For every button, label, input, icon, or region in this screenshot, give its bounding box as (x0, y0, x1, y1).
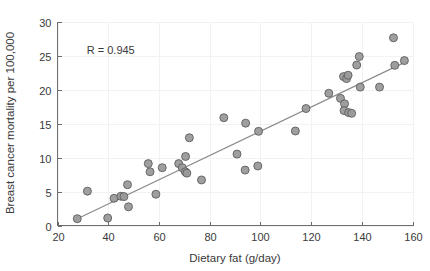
y-tick-label: 15 (39, 119, 51, 131)
y-tick-label: 0 (45, 221, 51, 233)
x-tick-label: 60 (153, 231, 165, 243)
data-point (400, 57, 408, 65)
y-tick-label: 30 (39, 17, 51, 29)
data-point (125, 203, 133, 211)
y-axis-title: Breast cancer mortality per 100,000 (4, 32, 16, 214)
data-point (325, 89, 333, 97)
data-point (182, 152, 190, 160)
data-point (198, 176, 206, 184)
data-point (241, 166, 249, 174)
scatter-plot: 20406080100120140160 051015202530 Dietar… (0, 0, 430, 271)
x-tick-label: 80 (204, 231, 216, 243)
data-point (185, 134, 193, 142)
data-point (144, 160, 152, 168)
x-axis-title: Dietary fat (g/day) (189, 252, 281, 264)
x-tick-label: 140 (353, 231, 371, 243)
data-point (254, 162, 262, 170)
data-point (348, 109, 356, 117)
data-point (158, 164, 166, 172)
data-point (120, 193, 128, 201)
data-point (146, 168, 154, 176)
y-tick-label: 10 (39, 153, 51, 165)
x-tick-label: 100 (251, 231, 269, 243)
correlation-annotation: R = 0.945 (87, 44, 135, 56)
data-point (152, 190, 160, 198)
data-point (255, 127, 263, 135)
data-point (389, 34, 397, 42)
chart-figure: 20406080100120140160 051015202530 Dietar… (0, 0, 430, 271)
data-point (104, 214, 112, 222)
data-point (233, 150, 241, 158)
data-point (344, 71, 352, 79)
y-tick-label: 5 (45, 187, 51, 199)
data-point (353, 61, 361, 69)
data-point (355, 53, 363, 61)
x-tick-label: 120 (302, 231, 320, 243)
data-point (302, 105, 310, 113)
data-point (183, 169, 191, 177)
data-point (291, 127, 299, 135)
x-tick-label: 160 (404, 231, 422, 243)
x-tick-label: 20 (52, 231, 64, 243)
data-point (73, 215, 81, 223)
data-point (376, 83, 384, 91)
data-point (220, 114, 228, 122)
data-point (391, 61, 399, 69)
x-tick-label: 40 (102, 231, 114, 243)
y-tick-label: 20 (39, 85, 51, 97)
data-point (123, 181, 131, 189)
y-tick-label: 25 (39, 51, 51, 63)
annotations-group: R = 0.945 (87, 44, 135, 56)
data-point (83, 187, 91, 195)
data-point (356, 83, 364, 91)
data-point (242, 119, 250, 127)
